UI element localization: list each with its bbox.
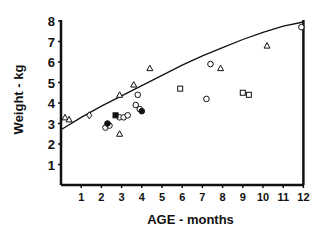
x-tick-label: 10 xyxy=(257,191,269,203)
x-tick-label: 9 xyxy=(240,191,246,203)
y-tick-label: 1 xyxy=(48,158,55,173)
y-tick-label: 4 xyxy=(48,96,56,111)
x-tick-label: 11 xyxy=(277,191,289,203)
x-tick-label: 12 xyxy=(297,191,309,203)
triangle-marker xyxy=(218,65,224,71)
circle-marker xyxy=(204,96,210,102)
y-tick-label: 5 xyxy=(48,76,55,91)
triangle-marker xyxy=(131,82,137,88)
diamond-marker xyxy=(87,112,92,119)
y-tick-label: 2 xyxy=(48,137,55,152)
x-tick-label: 1 xyxy=(78,191,84,203)
y-axis-label: Weight - kg xyxy=(11,60,26,140)
circle-marker xyxy=(135,92,141,98)
square-marker xyxy=(178,86,183,91)
x-tick-label: 7 xyxy=(199,191,205,203)
x-axis-label: AGE - months xyxy=(0,212,321,227)
square-marker xyxy=(246,92,251,97)
triangle-marker xyxy=(117,131,123,137)
circle-marker xyxy=(299,24,305,30)
circle-marker xyxy=(208,61,214,67)
filled-circle-marker xyxy=(105,121,111,127)
filled-circle-marker xyxy=(139,108,145,114)
chart-container: 12345678123456789101112 Weight - kg AGE … xyxy=(0,0,321,241)
y-tick-label: 7 xyxy=(48,35,55,50)
triangle-marker xyxy=(147,65,153,71)
x-tick-label: 3 xyxy=(119,191,125,203)
x-tick-label: 4 xyxy=(139,191,146,203)
y-tick-label: 6 xyxy=(48,55,55,70)
x-tick-label: 8 xyxy=(220,191,226,203)
y-tick-label: 3 xyxy=(48,117,55,132)
triangle-marker xyxy=(264,43,270,49)
triangle-marker xyxy=(117,92,123,98)
scatter-plot: 12345678123456789101112 xyxy=(0,0,321,241)
x-tick-label: 2 xyxy=(98,191,104,203)
circle-marker xyxy=(125,113,131,119)
x-tick-label: 6 xyxy=(179,191,185,203)
y-tick-label: 8 xyxy=(48,14,55,29)
square-marker xyxy=(240,90,245,95)
x-tick-label: 5 xyxy=(159,191,165,203)
filled-square-marker xyxy=(113,113,118,118)
reference-growth-curve xyxy=(61,22,303,130)
